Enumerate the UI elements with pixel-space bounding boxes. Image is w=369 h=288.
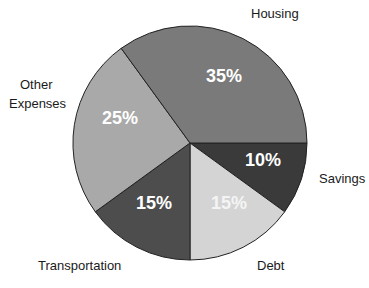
transportation-percent: 15% [136,193,172,214]
savings-label: Savings [319,171,365,187]
savings-percent: 10% [245,150,281,171]
other-percent: 25% [102,108,138,129]
pie-chart [0,0,369,288]
housing-percent: 35% [206,66,242,87]
transportation-label: Transportation [38,258,121,274]
debt-label: Debt [257,258,284,274]
other-label-line2: Expenses [9,96,66,112]
debt-percent: 15% [211,193,247,214]
other-label-line1: Other [20,77,53,93]
housing-label: Housing [251,6,299,22]
